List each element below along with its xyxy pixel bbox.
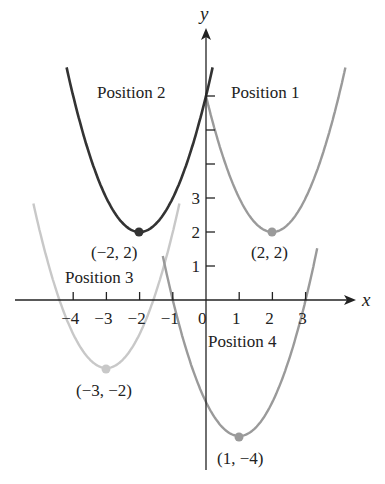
x-tick-label: 1 xyxy=(232,309,241,328)
vertex-label-position4: (1, −4) xyxy=(217,449,263,468)
y-ticks: 123 xyxy=(192,96,216,276)
vertex-dot-position3 xyxy=(102,365,111,374)
vertex-dot-position4 xyxy=(235,433,244,442)
x-tick-label: 2 xyxy=(265,309,274,328)
vertex-label-position1: (2, 2) xyxy=(251,243,288,262)
y-tick-label: 1 xyxy=(192,257,201,276)
vertex-label-position2: (−2, 2) xyxy=(91,243,137,262)
x-tick-label: −1 xyxy=(161,309,179,328)
y-axis-label: y xyxy=(198,3,209,24)
vertex-label-position3: (−3, −2) xyxy=(76,381,132,400)
x-tick-label: −4 xyxy=(61,309,80,328)
label-position1: Position 1 xyxy=(231,83,300,102)
parabola-translation-diagram: x y −4−3−2−10123 123 Position 2 Position… xyxy=(0,0,385,484)
x-tick-label: −2 xyxy=(128,309,146,328)
x-tick-label: 3 xyxy=(298,309,307,328)
x-tick-label: −3 xyxy=(94,309,112,328)
x-ticks: −4−3−2−10123 xyxy=(61,292,307,328)
vertex-dot-position2 xyxy=(135,228,144,237)
label-position2: Position 2 xyxy=(97,83,166,102)
vertex-dot-position1 xyxy=(268,228,277,237)
y-tick-label: 3 xyxy=(192,189,201,208)
x-axis-label: x xyxy=(361,289,371,310)
y-tick-label: 2 xyxy=(192,223,201,242)
label-position3: Position 3 xyxy=(65,268,134,287)
label-position4: Position 4 xyxy=(208,332,277,351)
x-tick-label: 0 xyxy=(198,309,207,328)
x-axis: x xyxy=(15,289,371,310)
